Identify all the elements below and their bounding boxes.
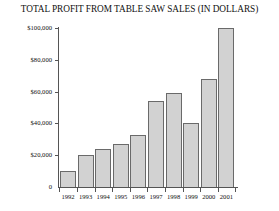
y-tick-mark bbox=[55, 155, 59, 156]
bar bbox=[201, 79, 217, 187]
y-tick-mark bbox=[55, 92, 59, 93]
bar bbox=[183, 123, 199, 187]
y-tick-mark bbox=[55, 60, 59, 61]
x-tick-mark bbox=[77, 188, 78, 192]
x-tick-mark bbox=[59, 188, 60, 192]
x-tick-mark bbox=[218, 188, 219, 192]
bar bbox=[148, 101, 164, 187]
y-axis-line bbox=[58, 27, 59, 188]
y-tick-mark bbox=[55, 28, 59, 29]
x-tick-mark bbox=[95, 188, 96, 192]
bar bbox=[113, 144, 129, 187]
x-tick-mark bbox=[183, 188, 184, 192]
x-tick-label: 2001 bbox=[215, 193, 237, 201]
y-tick-label: $60,000 bbox=[31, 88, 52, 95]
bar-chart-figure: TOTAL PROFIT FROM TABLE SAW SALES (IN DO… bbox=[0, 0, 279, 211]
y-tick-label: $80,000 bbox=[31, 56, 52, 63]
y-tick-label: $100,000 bbox=[27, 24, 52, 31]
bar bbox=[218, 28, 234, 187]
bar bbox=[78, 155, 94, 187]
plot-area: 0$20,000$40,000$60,000$80,000$100,000 19… bbox=[0, 0, 279, 211]
y-tick-label: 0 bbox=[49, 183, 52, 190]
y-tick-label: $40,000 bbox=[31, 119, 52, 126]
x-tick-mark bbox=[147, 188, 148, 192]
x-tick-mark bbox=[112, 188, 113, 192]
x-tick-mark bbox=[130, 188, 131, 192]
y-tick-mark bbox=[55, 123, 59, 124]
x-tick-mark bbox=[200, 188, 201, 192]
bar bbox=[130, 135, 146, 187]
y-tick-label: $20,000 bbox=[31, 151, 52, 158]
bar bbox=[95, 149, 111, 187]
x-tick-mark bbox=[165, 188, 166, 192]
bar bbox=[166, 93, 182, 187]
x-tick-mark bbox=[235, 188, 236, 192]
bar bbox=[60, 171, 76, 187]
